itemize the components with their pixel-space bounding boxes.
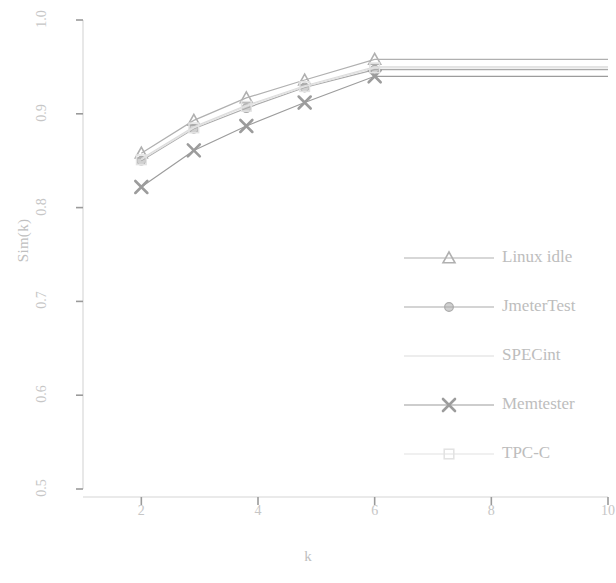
legend-label: Memtester [502, 394, 575, 414]
x-tick-label: 2 [126, 503, 156, 519]
x-tick-label: 4 [243, 503, 273, 519]
legend-label: JmeterTest [502, 296, 575, 316]
y-tick-label: 0.8 [34, 187, 50, 227]
series-jmetertest [137, 65, 608, 165]
legend-lines-group [404, 252, 494, 459]
y-tick-label: 0.9 [34, 93, 50, 133]
y-tick-label: 0.6 [34, 374, 50, 414]
legend-key-linux-idle [404, 252, 494, 263]
legend-label: TPC-C [502, 443, 550, 463]
x-tick-label: 10 [593, 503, 616, 519]
legend-key-tpc-c [404, 449, 494, 459]
legend-label: Linux idle [502, 247, 572, 267]
x-tick-label: 6 [360, 503, 390, 519]
legend-key-memtester [404, 399, 494, 411]
x-tick-label: 8 [476, 503, 506, 519]
y-tick-label: 1.0 [34, 0, 50, 39]
series-memtester [135, 70, 608, 193]
legend-key-jmetertest [404, 303, 494, 312]
y-tick-label: 0.5 [34, 468, 50, 508]
data-series-group [135, 53, 608, 193]
y-tick-label: 0.7 [34, 280, 50, 320]
legend-label: SPECint [502, 345, 561, 365]
chart-figure: Sim(k) k 246810 1.00.90.80.70.60.5 Linux… [0, 0, 616, 583]
plot-area [0, 0, 616, 583]
